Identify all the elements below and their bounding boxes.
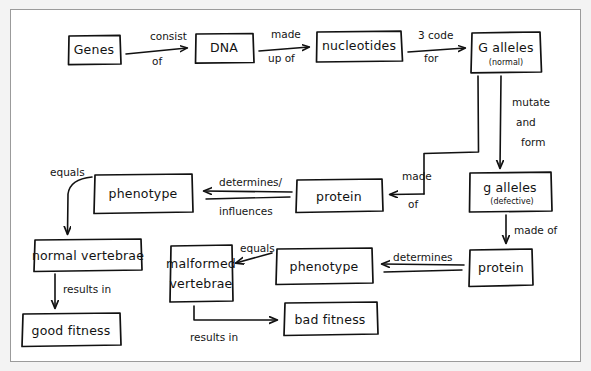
edge-nucleotides-to-g-normal: 3 code for [408, 29, 465, 64]
node-nucleotides[interactable]: nucleotides [317, 31, 403, 62]
edge-label-determines-slash: determines/ [219, 176, 283, 188]
edge-g-normal-to-protein-mid: made of [390, 76, 479, 210]
node-bad-fitness[interactable]: bad fitness [284, 302, 378, 336]
node-phenotype-top[interactable]: phenotype [94, 174, 193, 214]
edge-label-results-in-top: results in [63, 283, 111, 295]
node-protein-right-label: protein [478, 260, 524, 275]
node-good-fitness[interactable]: good fitness [22, 313, 121, 347]
node-phenotype-top-label: phenotype [109, 186, 178, 201]
node-dna[interactable]: DNA [196, 34, 255, 64]
edge-label-form: form [521, 136, 545, 148]
edge-label-and: and [516, 116, 536, 128]
node-g-alleles-defective[interactable]: g alleles (defective) [470, 172, 553, 212]
node-dna-label: DNA [210, 40, 238, 55]
node-bad-fitness-label: bad fitness [294, 312, 365, 327]
screenshot-canvas: Genes consist of DNA made up of nucleoti… [0, 0, 591, 371]
node-malformed-vertebrae-label-line1: malformed [166, 256, 236, 271]
edge-label-determines-bottom: determines [393, 251, 453, 263]
node-protein-right[interactable]: protein [469, 249, 533, 287]
edge-dna-to-nucleotides: made up of [259, 28, 309, 64]
node-genes-label: Genes [74, 42, 115, 57]
edge-label-equals-top: equals [50, 166, 85, 178]
node-phenotype-bottom-label: phenotype [290, 259, 359, 274]
edge-protein-right-to-phenotype-bottom: determines [382, 251, 464, 272]
node-protein-mid-label: protein [316, 189, 362, 204]
edge-label-made: made [271, 28, 301, 40]
concept-map-diagram: Genes consist of DNA made up of nucleoti… [0, 0, 591, 371]
node-protein-mid[interactable]: protein [296, 179, 383, 213]
node-g-alleles-normal-label: G alleles [478, 40, 533, 55]
node-normal-vertebrae[interactable]: normal vertebrae [32, 239, 144, 272]
edge-label-results-in-bottom: results in [190, 331, 238, 343]
edge-label-3-code: 3 code [418, 29, 453, 41]
node-nucleotides-label: nucleotides [322, 38, 396, 53]
edge-malformed-to-bad-fitness: results in [190, 306, 277, 343]
node-genes[interactable]: Genes [69, 35, 122, 64]
edge-label-made-mid: made [402, 170, 432, 182]
edge-label-consist: consist [150, 30, 187, 42]
edge-label-made-of-right: made of [514, 224, 558, 236]
edge-g-normal-to-g-defective: mutate and form [500, 76, 550, 168]
edge-genes-to-dna: consist of [126, 30, 187, 67]
edge-normal-vertebrae-to-good-fitness: results in [55, 274, 111, 308]
edge-label-for: for [424, 52, 439, 64]
edge-g-defective-to-protein-right: made of [506, 215, 558, 243]
node-g-alleles-defective-sub: (defective) [490, 197, 533, 206]
edge-phenotype-bottom-to-malformed: equals [236, 242, 275, 263]
node-normal-vertebrae-label: normal vertebrae [32, 248, 144, 263]
node-g-alleles-normal-sub: (normal) [489, 58, 523, 67]
edge-label-of-1: of [152, 55, 162, 67]
edge-label-of-mid: of [408, 198, 418, 210]
node-malformed-vertebrae[interactable]: malformed vertebrae [166, 245, 236, 302]
edge-label-up-of: up of [268, 52, 295, 64]
node-good-fitness-label: good fitness [32, 323, 111, 338]
node-g-alleles-defective-label: g alleles [483, 180, 537, 195]
node-phenotype-bottom[interactable]: phenotype [276, 248, 373, 285]
edge-phenotype-top-to-normal-vertebrae: equals [50, 166, 92, 234]
edge-label-influences: influences [219, 205, 273, 217]
edge-label-equals-bottom: equals [240, 242, 275, 254]
edge-label-mutate: mutate [512, 96, 550, 108]
node-malformed-vertebrae-label-line2: vertebrae [169, 276, 232, 291]
node-g-alleles-normal[interactable]: G alleles (normal) [471, 32, 542, 73]
edge-protein-mid-to-phenotype-top: determines/ influences [204, 176, 292, 217]
